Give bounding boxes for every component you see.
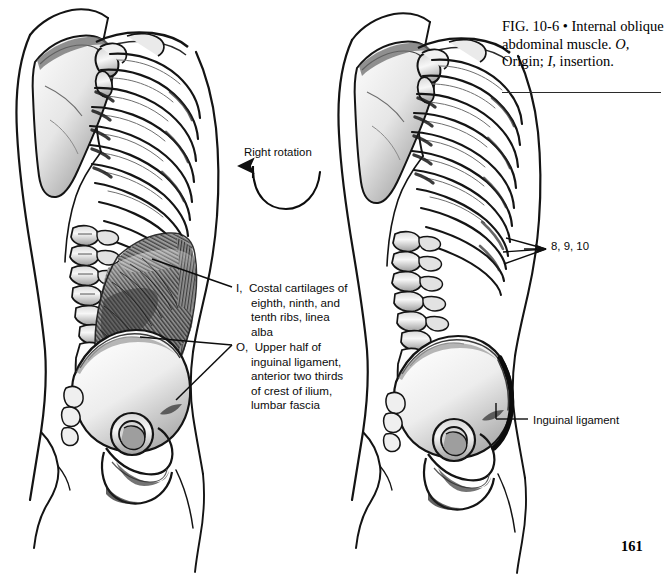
insertion-line-1: Costal cartilages of — [249, 281, 348, 294]
right-rotation-arrow — [253, 166, 320, 209]
insertion-line-3: tenth ribs, linea — [236, 310, 348, 325]
caption-origin-key: O, — [615, 36, 629, 52]
caption-origin-word: Origin; — [502, 53, 544, 69]
origin-line-1: Upper half of — [255, 340, 321, 353]
caption-insertion-key: I, — [548, 53, 556, 69]
origin-label: O, Upper half ofinguinal ligament,anteri… — [236, 340, 343, 413]
inguinal-ligament-label: Inguinal ligament — [533, 413, 619, 428]
insertion-line-4: alba — [236, 325, 348, 340]
right-rotation-label: Right rotation — [244, 145, 312, 160]
caption-insertion-word: insertion. — [560, 53, 614, 69]
ribs-label: 8, 9, 10 — [551, 239, 589, 254]
caption-divider-rule — [502, 92, 661, 93]
origin-line-2: inguinal ligament, — [236, 355, 343, 370]
origin-line-5: lumbar fascia — [236, 398, 343, 413]
textbook-page: FIG. 10-6 • Internal oblique abdominal m… — [0, 0, 672, 575]
origin-key: O, — [236, 340, 248, 353]
origin-line-4: of crest of ilium, — [236, 384, 343, 399]
insertion-label: I, Costal cartilages ofeighth, ninth, an… — [236, 281, 348, 339]
figure-caption: FIG. 10-6 • Internal oblique abdominal m… — [502, 18, 666, 71]
origin-line-3: anterior two thirds — [236, 369, 343, 384]
page-number: 161 — [621, 538, 643, 555]
caption-fig-number: FIG. 10-6 — [502, 18, 559, 34]
right-figure — [339, 13, 546, 573]
insertion-line-2: eighth, ninth, and — [236, 296, 348, 311]
